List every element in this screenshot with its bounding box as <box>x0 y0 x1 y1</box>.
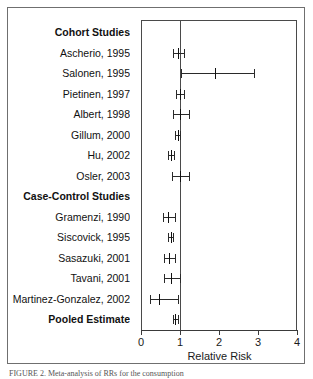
ci-cap-lower <box>168 151 169 160</box>
confidence-interval <box>141 248 297 268</box>
study-row: Hu, 2002 <box>0 145 298 165</box>
forest-plot-figure: 01234 Relative Risk Cohort StudiesAscher… <box>0 0 313 379</box>
confidence-interval <box>141 84 297 104</box>
study-row: Ascherio, 1995 <box>0 43 298 63</box>
ci-cap-upper <box>189 172 190 181</box>
ci-cap-upper <box>173 233 174 242</box>
ci-cap-lower <box>173 110 174 119</box>
ci-cap-lower <box>172 172 173 181</box>
point-estimate-marker <box>171 232 172 243</box>
point-estimate-marker <box>215 68 216 79</box>
study-label: Gramenzi, 1990 <box>0 207 130 227</box>
ci-cap-lower <box>163 213 164 222</box>
ci-cap-upper <box>175 213 176 222</box>
confidence-interval <box>141 289 297 309</box>
study-label: Ascherio, 1995 <box>0 43 130 63</box>
point-estimate-marker <box>169 253 170 264</box>
section-heading-row: Cohort Studies <box>0 22 298 42</box>
section-heading-row: Case-Control Studies <box>0 186 298 206</box>
study-label: Siscovick, 1995 <box>0 227 130 247</box>
study-label: Sasazuki, 2001 <box>0 248 130 268</box>
confidence-interval <box>141 227 297 247</box>
study-label: Osler, 2003 <box>0 166 130 186</box>
ci-cap-lower <box>176 90 177 99</box>
x-tick-1 <box>180 330 181 335</box>
ci-cap-lower <box>173 315 174 324</box>
ci-cap-lower <box>175 131 176 140</box>
study-label: Gillum, 2000 <box>0 125 130 145</box>
x-tick-label-4: 4 <box>287 336 307 348</box>
ci-cap-upper <box>189 110 190 119</box>
study-row: Gramenzi, 1990 <box>0 207 298 227</box>
ci-cap-upper <box>180 131 181 140</box>
point-estimate-marker <box>159 294 160 305</box>
ci-cap-upper <box>174 151 175 160</box>
point-estimate-marker <box>178 130 179 141</box>
study-label: Martinez-Gonzalez, 2002 <box>0 289 130 309</box>
ci-cap-lower <box>181 69 182 78</box>
ci-cap-upper <box>254 69 255 78</box>
study-row: Sasazuki, 2001 <box>0 248 298 268</box>
study-row: Salonen, 1995 <box>0 63 298 83</box>
confidence-interval <box>141 104 297 124</box>
ci-cap-lower <box>164 274 165 283</box>
study-label: Hu, 2002 <box>0 145 130 165</box>
point-estimate-marker <box>178 48 179 59</box>
ci-cap-upper <box>178 315 179 324</box>
ci-cap-lower <box>173 49 174 58</box>
confidence-interval <box>141 63 297 83</box>
ci-cap-upper <box>180 274 181 283</box>
study-label: Pietinen, 1997 <box>0 84 130 104</box>
study-label: Albert, 1998 <box>0 104 130 124</box>
x-tick-label-1: 1 <box>170 336 190 348</box>
ci-whisker-line <box>150 299 178 300</box>
ci-whisker-line <box>181 73 254 74</box>
study-row: Pietinen, 1997 <box>0 84 298 104</box>
figure-caption: FIGURE 2. Meta-analysis of RRs for the c… <box>9 369 309 379</box>
point-estimate-marker <box>180 171 181 182</box>
confidence-interval <box>141 309 297 329</box>
section-heading-label: Cohort Studies <box>0 22 130 42</box>
section-heading-label: Case-Control Studies <box>0 186 130 206</box>
confidence-interval <box>141 207 297 227</box>
ci-cap-upper <box>184 90 185 99</box>
study-label: Pooled Estimate <box>0 309 130 329</box>
confidence-interval <box>141 268 297 288</box>
ci-cap-lower <box>168 233 169 242</box>
x-tick-4 <box>297 330 298 335</box>
confidence-interval <box>141 145 297 165</box>
confidence-interval <box>141 125 297 145</box>
study-label: Tavani, 2001 <box>0 268 130 288</box>
ci-cap-lower <box>164 254 165 263</box>
confidence-interval <box>141 43 297 63</box>
x-tick-3 <box>258 330 259 335</box>
study-row: Gillum, 2000 <box>0 125 298 145</box>
study-row: Albert, 1998 <box>0 104 298 124</box>
study-row: Siscovick, 1995 <box>0 227 298 247</box>
study-label: Salonen, 1995 <box>0 63 130 83</box>
x-tick-label-0: 0 <box>131 336 151 348</box>
point-estimate-marker <box>171 273 172 284</box>
study-row: Osler, 2003 <box>0 166 298 186</box>
ci-whisker-line <box>173 114 189 115</box>
point-estimate-marker <box>180 109 181 120</box>
study-row: Pooled Estimate <box>0 309 298 329</box>
ci-cap-upper <box>175 254 176 263</box>
point-estimate-marker <box>168 212 169 223</box>
point-estimate-marker <box>180 89 181 100</box>
x-tick-label-3: 3 <box>248 336 268 348</box>
x-tick-label-2: 2 <box>209 336 229 348</box>
x-tick-0 <box>141 330 142 335</box>
x-axis-title: Relative Risk <box>141 350 298 362</box>
study-row: Tavani, 2001 <box>0 268 298 288</box>
ci-cap-lower <box>150 295 151 304</box>
confidence-interval <box>141 166 297 186</box>
x-tick-2 <box>219 330 220 335</box>
point-estimate-marker <box>171 150 172 161</box>
ci-cap-upper <box>178 295 179 304</box>
point-estimate-marker <box>175 314 176 325</box>
study-row: Martinez-Gonzalez, 2002 <box>0 289 298 309</box>
ci-cap-upper <box>184 49 185 58</box>
